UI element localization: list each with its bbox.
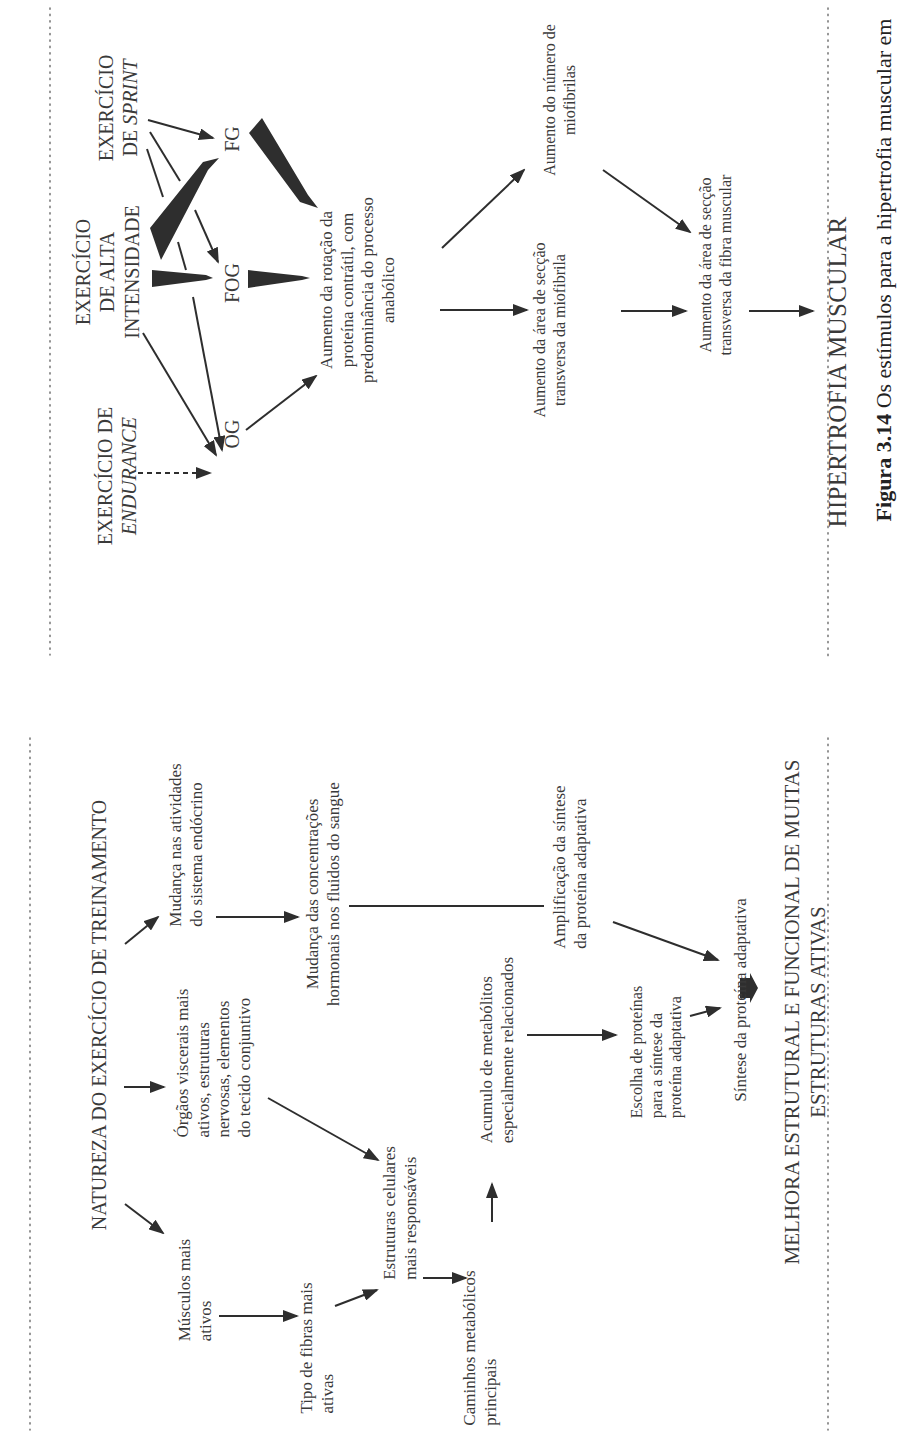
arrow-sprint-fog-seg2: [195, 210, 218, 262]
figure-caption-text: Os estímulos para a hipertrofia muscular…: [871, 19, 896, 414]
node-cell-structures: Estruturas celulares mais responsáveis: [380, 1146, 421, 1280]
arrow-turnover-myofibril-number: [442, 170, 524, 248]
stimulus-high-intensity: EXERCÍCIO DE ALTA INTENSIDADE: [71, 205, 144, 338]
arrow-sprint-og: [193, 297, 222, 450]
figure-label: Figura 3.14: [871, 414, 896, 522]
node-fiber-area: Aumento da área de secção transversa da …: [696, 175, 735, 356]
fiber-fg: FG: [220, 126, 244, 152]
arrow-title-muscles: [125, 1204, 163, 1233]
figure-page: EXERCÍCIO DE ENDURANCE EXERCÍCIO DE ALTA…: [0, 0, 905, 1433]
node-myofibril-number: Aumento do número de miofibrilas: [540, 24, 579, 176]
result-hypertrophy: HIPERTROFIA MUSCULAR: [823, 217, 854, 528]
stimulus-endurance: EXERCÍCIO DE ENDURANCE: [93, 407, 142, 545]
node-endocrine: Mudança nas atividades do sistema endócr…: [166, 763, 207, 926]
arrow-myofibril-number-fiber-area: [603, 170, 690, 232]
node-hormones: Mudança das concentrações hormonais nos …: [303, 782, 344, 1006]
node-metabolic-pathways: Caminhos metabólicos principais: [460, 1270, 501, 1425]
bottom-title: NATUREZA DO EXERCÍCIO DE TREINAMENTO: [87, 800, 111, 1230]
stimulus-sprint: EXERCÍCIO DE SPRINT: [94, 55, 143, 162]
node-organs: Órgãos viscerais mais ativos, estruturas…: [173, 989, 256, 1138]
node-protein-turnover: Aumento da rotação da proteína contrátil…: [317, 197, 400, 383]
fiber-og: OG: [220, 420, 244, 449]
arrow-og-turnover: [246, 376, 316, 430]
node-muscles: Músculos mais ativos: [175, 1239, 216, 1341]
wedge-intensity-fg: [150, 158, 219, 260]
node-amplification: Amplificação da síntese da proteína adap…: [550, 785, 591, 948]
node-protein-choice: Escolha de proteínas para a síntese da p…: [627, 986, 686, 1118]
figure-caption: Figura 3.14 Os estímulos para a hipertro…: [871, 19, 898, 522]
wedge-intensity-fog: [152, 270, 213, 287]
arrow-amplification-synthesis: [613, 922, 718, 960]
arrow-organs-cells: [268, 1098, 378, 1160]
arrow-sprint-fg: [148, 120, 213, 138]
wedge-fog-turnover: [248, 270, 310, 288]
node-metabolites: Acumulo de metabólitos especialmente rel…: [477, 957, 518, 1143]
arrow-intensity-og: [143, 333, 216, 455]
wedge-fg-turnover: [249, 118, 318, 208]
arrow-choice-synthesis: [690, 1008, 720, 1016]
arrow-sprint-line-c: [178, 242, 186, 270]
arrow-title-endocrine: [125, 917, 158, 944]
fiber-fog: FOG: [220, 263, 244, 303]
arrow-sprint-line-b: [147, 149, 163, 197]
arrow-fibertype-cells: [335, 1290, 377, 1306]
node-myofibril-area: Aumento da área de secção transversa da …: [530, 242, 569, 417]
node-fiber-type: Tipo de fibras mais ativas: [297, 1282, 338, 1413]
node-adaptive-synthesis: Síntese da proteína adaptativa: [731, 898, 752, 1101]
result-structural-improvement: MELHORA ESTRUTURAL E FUNCIONAL DE MUITAS…: [780, 760, 831, 1265]
